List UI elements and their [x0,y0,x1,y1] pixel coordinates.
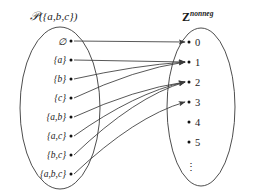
domain-item-label: {b} [54,74,66,84]
domain-item-label: {a} [54,55,66,65]
codomain-caption-base: Z [182,10,190,24]
codomain-item-label: 4 [195,117,200,128]
text-label-layer: 𝒫({a,b,c}) Znonneg ∅{a}{b}{c}{a,b}{a,c}{… [0,0,253,195]
codomain-item-label: 5 [195,137,200,148]
codomain-caption-superscript: nonneg [190,9,213,18]
codomain-item-label: 3 [195,97,200,108]
domain-caption: 𝒫({a,b,c}) [30,9,78,24]
domain-item-label: {a,b} [47,112,66,122]
codomain-ellipsis: ⋮ [186,162,196,172]
domain-item-label: {a,b,c} [40,169,66,179]
codomain-item-label: 2 [195,77,200,88]
domain-item-label: ∅ [58,36,66,47]
codomain-item-label: 0 [195,37,200,48]
domain-caption-suffix: ({a,b,c}) [39,10,77,22]
script-p-glyph: 𝒫 [30,9,39,23]
codomain-item-label: 1 [195,57,200,68]
domain-item-label: {b,c} [47,150,66,160]
codomain-caption: Znonneg [182,9,213,25]
domain-item-label: {a,c} [47,131,66,141]
set-mapping-figure: 𝒫({a,b,c}) Znonneg ∅{a}{b}{c}{a,b}{a,c}{… [0,0,253,195]
domain-item-label: {c} [54,93,66,103]
